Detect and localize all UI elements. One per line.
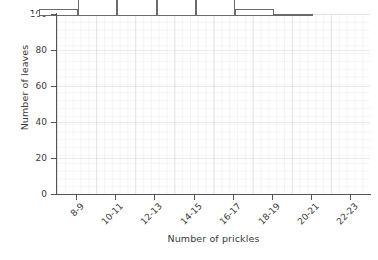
y-tick-mark-40 — [51, 122, 56, 123]
y-tick-label-20: 20 — [16, 153, 47, 163]
x-tick-mark-22-23 — [350, 195, 351, 200]
x-tick-mark-18-19 — [272, 195, 273, 200]
x-axis-title: Number of prickles — [57, 233, 370, 244]
x-tick-mark-14-15 — [194, 195, 195, 200]
bar-16-17 — [196, 0, 235, 16]
bar-series — [0, 14, 39, 16]
plot-area — [57, 14, 370, 194]
y-tick-label-60: 60 — [16, 81, 47, 91]
x-tick-mark-20-21 — [311, 195, 312, 200]
x-tick-mark-10-11 — [115, 195, 116, 200]
bar-12-13 — [117, 0, 156, 16]
bar-18-19 — [235, 9, 274, 16]
bar-10-11 — [78, 0, 117, 16]
x-tick-mark-16-17 — [233, 195, 234, 200]
y-tick-label-40: 40 — [16, 117, 47, 127]
x-tick-label-8-9: 8-9 — [51, 201, 86, 236]
y-tick-mark-100 — [51, 14, 56, 15]
y-tick-label-80: 80 — [16, 45, 47, 55]
bar-22-23 — [274, 14, 313, 16]
y-tick-label-0: 0 — [16, 189, 47, 199]
x-tick-mark-8-9 — [76, 195, 77, 200]
x-axis-line — [56, 194, 371, 195]
bar-14-15 — [157, 0, 196, 16]
y-tick-mark-80 — [51, 50, 56, 51]
histogram-figure: Number of leaves 100 80 60 40 20 0 8-9 1… — [0, 0, 378, 260]
bar-8-9 — [39, 9, 78, 16]
y-tick-mark-60 — [51, 86, 56, 87]
y-tick-mark-20 — [51, 158, 56, 159]
x-tick-mark-12-13 — [154, 195, 155, 200]
y-axis-line — [56, 13, 57, 195]
y-tick-mark-0 — [51, 194, 56, 195]
